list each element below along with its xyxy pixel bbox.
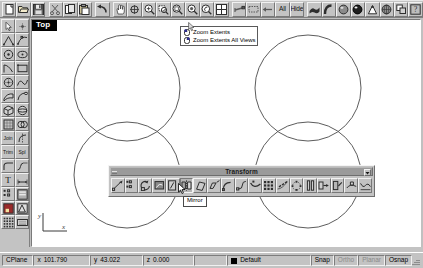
toolbar-button-cut[interactable] xyxy=(49,2,63,17)
toolbar-button-select-objects[interactable] xyxy=(232,2,246,17)
layer-color-swatch[interactable] xyxy=(231,258,237,264)
tool-button-select-pointer[interactable] xyxy=(1,19,15,33)
toolbar-button-render[interactable] xyxy=(351,2,365,17)
toggle-snap[interactable]: Snap xyxy=(311,255,334,266)
viewport-title-tab[interactable]: Top xyxy=(32,20,57,31)
toolbar-button-open-file[interactable] xyxy=(16,2,30,17)
toolbar-button-select-previous[interactable] xyxy=(261,2,275,17)
tool-button-freeform-curve[interactable] xyxy=(15,75,29,89)
tool-button-rectangle[interactable] xyxy=(15,61,29,75)
toolbar-button-spotlight[interactable] xyxy=(365,2,379,17)
circle-top-right[interactable] xyxy=(255,35,361,141)
tool-button-arc[interactable] xyxy=(1,61,15,75)
tool-button-curve-control[interactable] xyxy=(15,33,29,47)
transform-button-array-curve[interactable] xyxy=(276,178,290,193)
toolbar-button-zoom-previous[interactable] xyxy=(200,2,214,17)
toolbar-button-help[interactable]: ? xyxy=(408,2,422,17)
tool-button-keyboard-panel[interactable] xyxy=(15,215,29,229)
transform-button-rotate[interactable] xyxy=(138,178,152,193)
transform-button-smash[interactable] xyxy=(358,178,372,193)
status-bar: CPlane x 101.790 y 43.022 z 0.000 Defaul… xyxy=(0,252,423,268)
toolbar-button-copy[interactable] xyxy=(63,2,77,17)
transform-button-shear[interactable] xyxy=(193,178,207,193)
tool-button-mesh-object[interactable] xyxy=(1,117,15,131)
toolbar-button-paste[interactable] xyxy=(78,2,92,17)
toggle-planar[interactable]: Planar xyxy=(358,255,385,266)
transform-button-bend[interactable] xyxy=(221,178,235,193)
tool-button-boolean-tools[interactable] xyxy=(15,117,29,131)
toolbar-close-icon[interactable] xyxy=(364,169,371,176)
tool-button-point-object[interactable] xyxy=(15,19,29,33)
toolbar-button-layers[interactable] xyxy=(394,2,408,17)
transform-button-twist[interactable] xyxy=(235,178,249,193)
mouse-cursor-arrow-secondary xyxy=(188,22,195,33)
tool-button-object-props[interactable] xyxy=(15,187,29,201)
transform-button-taper[interactable] xyxy=(207,178,221,193)
tool-button-circle-center[interactable] xyxy=(1,75,15,89)
toolbar-button-hide-objects[interactable]: Hide xyxy=(290,2,304,17)
toolbar-button-shade-view[interactable] xyxy=(307,2,321,17)
tool-button-box-solid[interactable] xyxy=(1,103,15,117)
toolbar-button-render-shaded[interactable] xyxy=(336,2,350,17)
toolbar-button-viewport-layout[interactable] xyxy=(214,2,228,17)
toggle-ortho[interactable]: Ortho xyxy=(334,255,358,266)
tool-button-render-tools[interactable] xyxy=(1,201,15,215)
transform-toolbar-titlebar[interactable]: Transform xyxy=(110,167,373,176)
bend-icon xyxy=(222,180,233,191)
zoom-move-icon xyxy=(129,4,140,15)
toolbar-button-zoom-dynamic[interactable] xyxy=(127,2,141,17)
tool-button-drafting[interactable] xyxy=(15,201,29,215)
tool-button-split-tool[interactable]: Spl xyxy=(15,145,29,159)
surface-loft-icon xyxy=(3,91,14,102)
toolbar-button-select-none[interactable] xyxy=(246,2,260,17)
tool-button-ellipse[interactable] xyxy=(15,47,29,61)
toolbar-button-zoom-in[interactable] xyxy=(142,2,156,17)
circle-top-left[interactable] xyxy=(74,35,180,141)
toolbar-button-select-all[interactable]: All xyxy=(275,2,289,17)
toggle-osnap[interactable]: Osnap xyxy=(385,255,412,266)
flyout-item-zoom-extents-all[interactable]: Zoom Extents All Views xyxy=(182,36,256,44)
transform-button-orient-on-srf[interactable] xyxy=(344,178,358,193)
transform-button-orient-perp[interactable] xyxy=(331,178,345,193)
top-viewport[interactable]: Top y x xyxy=(31,19,421,247)
resize-grip[interactable] xyxy=(412,256,421,266)
transform-button-flow-along-curve[interactable] xyxy=(248,178,262,193)
toolbar-button-undo[interactable] xyxy=(95,2,109,17)
tool-button-polyline[interactable] xyxy=(1,33,15,47)
toolbar-button-pan[interactable] xyxy=(113,2,127,17)
tool-button-text-object[interactable]: T xyxy=(1,173,15,187)
transform-button-orient-3-points[interactable] xyxy=(317,178,331,193)
toolbar-button-zoom-window[interactable] xyxy=(156,2,170,17)
tool-button-blend-curves[interactable] xyxy=(15,159,29,173)
tool-button-sphere-solid[interactable] xyxy=(15,103,29,117)
tool-button-surface-loft[interactable] xyxy=(1,89,15,103)
transform-button-copy[interactable] xyxy=(125,178,139,193)
tool-button-split[interactable] xyxy=(15,131,29,145)
cplane-indicator[interactable]: CPlane xyxy=(2,255,33,266)
transform-toolbar[interactable]: Transform xyxy=(108,165,375,197)
transform-button-array-polar[interactable] xyxy=(290,178,304,193)
transform-button-rotate-3d[interactable] xyxy=(152,178,166,193)
twist-icon xyxy=(236,180,247,191)
toolbar-button-zoom-extents[interactable] xyxy=(171,2,185,17)
tool-button-trim[interactable]: Trim xyxy=(1,145,15,159)
toolbar-button-new-file[interactable] xyxy=(2,2,16,17)
toolbar-button-zoom-selected[interactable] xyxy=(185,2,199,17)
tool-button-fillet-curves[interactable] xyxy=(1,159,15,173)
tool-button-circle[interactable] xyxy=(1,47,15,61)
toolbar-button-render-properties[interactable] xyxy=(380,2,394,17)
transform-button-move[interactable] xyxy=(111,178,125,193)
tool-button-join[interactable]: Join xyxy=(1,131,15,145)
sphere-render-icon xyxy=(352,4,363,15)
viewport-canvas[interactable] xyxy=(32,20,421,247)
tool-button-dimension[interactable] xyxy=(15,173,29,187)
toolbar-button-save-file[interactable] xyxy=(31,2,45,17)
tool-button-grid-snap[interactable] xyxy=(1,215,15,229)
toolbar-button-render-preview[interactable] xyxy=(322,2,336,17)
tool-button-surface-sweep[interactable] xyxy=(15,89,29,103)
transform-button-orient-2-points[interactable] xyxy=(303,178,317,193)
tool-button-analyze-points[interactable] xyxy=(1,187,15,201)
toolbar-grip[interactable] xyxy=(112,171,117,174)
current-layer[interactable]: Default xyxy=(227,255,311,266)
transform-button-array-rectangular[interactable] xyxy=(262,178,276,193)
